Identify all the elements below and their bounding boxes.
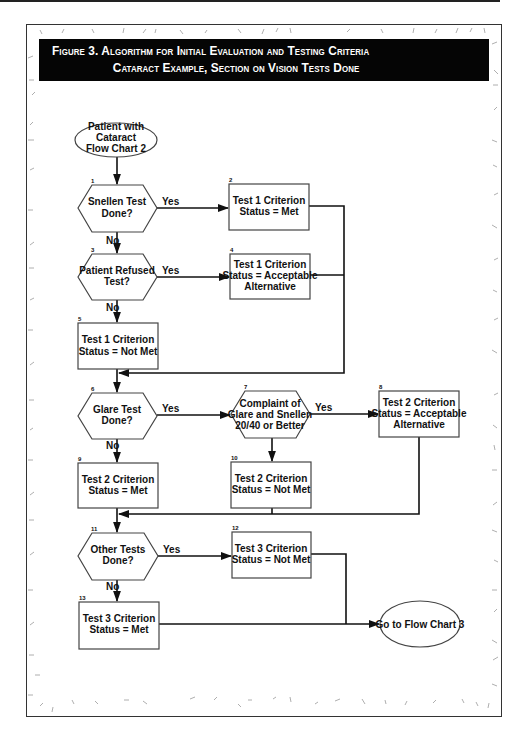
svg-text:Test 2 Criterion: Test 2 Criterion <box>383 397 456 408</box>
svg-text:Test 1 Criterion: Test 1 Criterion <box>233 195 306 206</box>
svg-text:Done?: Done? <box>101 415 132 426</box>
svg-text:Status = Met: Status = Met <box>239 206 299 217</box>
flowchart: Yes No Yes No Yes Yes No Yes No Patient … <box>0 0 530 743</box>
svg-text:1: 1 <box>91 178 95 184</box>
svg-text:Alternative: Alternative <box>244 281 296 292</box>
process-node-10: 10 Test 2 Criterion Status = Not Met <box>231 455 311 508</box>
svg-text:Test 2 Criterion: Test 2 Criterion <box>82 474 155 485</box>
process-node-5: 5 Test 1 Criterion Status = Not Met <box>78 316 158 369</box>
decision-node-11: 11 Other Tests Done? <box>78 526 158 580</box>
process-node-13: 13 Test 3 Criterion Status = Met <box>79 595 159 649</box>
process-node-2: 2 Test 1 Criterion Status = Met <box>229 177 309 230</box>
svg-text:Glare and Snellen: Glare and Snellen <box>228 409 312 420</box>
svg-text:Status = Met: Status = Met <box>89 624 149 635</box>
svg-text:Test 1 Criterion: Test 1 Criterion <box>234 259 307 270</box>
svg-text:11: 11 <box>91 526 98 532</box>
svg-text:6: 6 <box>91 386 95 392</box>
svg-text:Alternative: Alternative <box>393 419 445 430</box>
edge-label-yes: Yes <box>315 402 333 413</box>
svg-text:Test?: Test? <box>104 276 130 287</box>
svg-text:Other Tests: Other Tests <box>91 544 146 555</box>
svg-text:Test 2 Criterion: Test 2 Criterion <box>235 473 308 484</box>
svg-text:Complaint of: Complaint of <box>239 398 301 409</box>
edge-label-yes: Yes <box>162 196 180 207</box>
figure-title-line-2: Cataract Example, Section on Vision Test… <box>52 59 437 76</box>
svg-text:Cataract: Cataract <box>96 132 137 143</box>
svg-text:Status = Acceptable: Status = Acceptable <box>223 270 318 281</box>
edge-label-yes: Yes <box>163 544 181 555</box>
svg-text:8: 8 <box>379 384 383 390</box>
svg-text:Patient with: Patient with <box>88 121 144 132</box>
edge-label-yes: Yes <box>162 403 180 414</box>
svg-text:Status = Acceptable: Status = Acceptable <box>372 408 467 419</box>
end-node: Go to Flow Chart 3 <box>376 601 465 647</box>
svg-text:12: 12 <box>232 525 239 531</box>
start-node: Patient with Cataract Flow Chart 2 <box>75 121 157 157</box>
process-node-8: 8 Test 2 Criterion Status = Acceptable A… <box>372 384 467 437</box>
figure-title-line-1: Figure 3. Algorithm for Initial Evaluati… <box>52 42 437 59</box>
svg-text:Patient Refused: Patient Refused <box>79 265 155 276</box>
svg-text:Status = Not Met: Status = Not Met <box>79 346 158 357</box>
edge-label-no: No <box>106 235 119 246</box>
edge-label-no: No <box>106 581 119 592</box>
svg-text:10: 10 <box>231 455 238 461</box>
decision-node-3: 3 Patient Refused Test? <box>78 247 157 300</box>
svg-text:9: 9 <box>78 456 82 462</box>
svg-text:7: 7 <box>244 384 248 390</box>
svg-text:3: 3 <box>91 247 95 253</box>
svg-text:Test 3 Criterion: Test 3 Criterion <box>83 613 156 624</box>
figure-title-bar: Figure 3. Algorithm for Initial Evaluati… <box>39 39 489 81</box>
svg-text:Flow Chart 2: Flow Chart 2 <box>86 143 146 154</box>
svg-text:Status = Not Met: Status = Not Met <box>232 484 311 495</box>
edge-label-no: No <box>106 440 119 451</box>
decision-node-1: 1 Snellen Test Done? <box>78 178 157 232</box>
svg-text:20/40 or Better: 20/40 or Better <box>235 420 305 431</box>
edge-label-no: No <box>106 302 119 313</box>
svg-text:5: 5 <box>78 316 82 322</box>
svg-text:Status = Met: Status = Met <box>88 485 148 496</box>
svg-text:Snellen Test: Snellen Test <box>88 196 147 207</box>
decision-node-7: 7 Complaint of Glare and Snellen 20/40 o… <box>228 384 312 438</box>
svg-text:Status = Not Met: Status = Not Met <box>232 554 311 565</box>
process-node-4: 4 Test 1 Criterion Status = Acceptable A… <box>223 247 318 299</box>
edge-label-yes: Yes <box>162 265 180 276</box>
svg-text:Glare Test: Glare Test <box>93 404 142 415</box>
svg-text:4: 4 <box>230 247 234 253</box>
process-node-12: 12 Test 3 Criterion Status = Not Met <box>232 525 311 578</box>
svg-text:Test 1 Criterion: Test 1 Criterion <box>82 334 155 345</box>
svg-text:Go to Flow Chart 3: Go to Flow Chart 3 <box>376 619 465 630</box>
svg-text:Done?: Done? <box>102 555 133 566</box>
svg-text:2: 2 <box>229 177 233 183</box>
decision-node-6: 6 Glare Test Done? <box>78 386 157 439</box>
svg-text:13: 13 <box>79 595 86 601</box>
svg-text:Test 3 Criterion: Test 3 Criterion <box>235 543 308 554</box>
svg-text:Done?: Done? <box>101 208 132 219</box>
process-node-9: 9 Test 2 Criterion Status = Met <box>78 456 158 508</box>
